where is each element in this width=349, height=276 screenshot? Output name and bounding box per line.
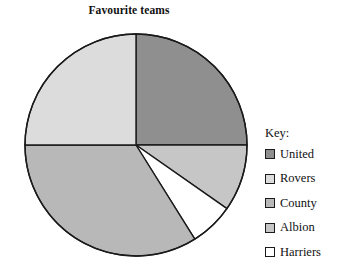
legend-swatch-county [265, 198, 275, 208]
legend-label-harriers: Harriers [280, 246, 321, 259]
legend-swatch-harriers [265, 247, 275, 257]
legend-label-albion: Albion [280, 221, 315, 234]
legend-item-rovers: Rovers [265, 167, 349, 192]
legend-swatch-rovers [265, 174, 275, 184]
pie-slice-united [136, 34, 247, 145]
legend-item-united: United [265, 142, 349, 167]
legend-swatch-united [265, 149, 275, 159]
pie-slice-group [25, 34, 247, 256]
legend: Key: UnitedRoversCountyAlbionHarriers [265, 126, 349, 265]
legend-item-harriers: Harriers [265, 240, 349, 265]
legend-title: Key: [265, 126, 349, 140]
legend-swatch-albion [265, 223, 275, 233]
pie-slice-rovers [25, 34, 136, 145]
pie-chart [0, 0, 258, 276]
legend-label-rovers: Rovers [280, 172, 315, 185]
legend-item-albion: Albion [265, 216, 349, 241]
legend-item-county: County [265, 191, 349, 216]
pie-chart-svg [0, 0, 258, 276]
legend-label-united: United [280, 148, 314, 161]
legend-items: UnitedRoversCountyAlbionHarriers [265, 142, 349, 265]
legend-label-county: County [280, 197, 317, 210]
